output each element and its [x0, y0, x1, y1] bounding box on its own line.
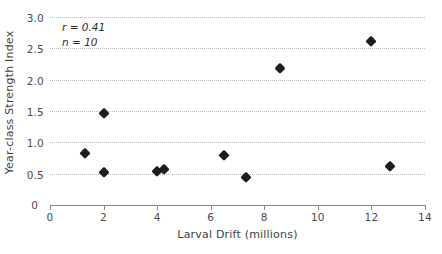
plot-area: 0.51.01.52.02.53.0 [50, 17, 425, 205]
data-point [98, 167, 109, 178]
x-axis-tick [425, 205, 426, 210]
x-axis-tick-label: 8 [261, 211, 268, 223]
x-axis-tick [50, 205, 51, 210]
x-axis-tick-label: 10 [311, 211, 325, 223]
y-axis-tick-label: 2.5 [27, 43, 44, 55]
x-axis-tick [157, 205, 158, 210]
y-axis-tick-label: 3.0 [27, 12, 44, 24]
data-point [80, 148, 91, 159]
x-axis-tick [211, 205, 212, 210]
x-axis-tick-label: 12 [365, 211, 379, 223]
data-point [275, 63, 286, 74]
x-axis-tick-label: 6 [207, 211, 214, 223]
x-axis-tick-label: 4 [154, 211, 161, 223]
y-axis-title-text: Year-class Strength Index [4, 31, 17, 175]
stats-annotation: r = 0.41n = 10 [62, 20, 105, 50]
y-gridline: 2.0 [50, 80, 425, 81]
data-point [385, 161, 396, 172]
y-axis-tick-label: 0 [31, 199, 38, 211]
scatter-plot-figure: 0.51.01.52.02.53.0 02468101214 Larval Dr… [0, 0, 442, 254]
x-axis-tick [318, 205, 319, 210]
x-axis-tick-label: 2 [100, 211, 107, 223]
y-axis-tick-label: 1.0 [27, 137, 44, 149]
annotation-line: n = 10 [62, 35, 105, 50]
x-axis-line [50, 205, 425, 206]
y-axis-title: Year-class Strength Index [2, 0, 18, 205]
y-axis-tick-label: 0.5 [27, 169, 44, 181]
x-axis-tick [371, 205, 372, 210]
y-axis-tick-label: 1.5 [27, 106, 44, 118]
annotation-line: r = 0.41 [62, 20, 105, 35]
data-point [219, 150, 230, 161]
data-point [98, 108, 109, 119]
y-axis-tick-label: 2.0 [27, 75, 44, 87]
x-axis-tick [104, 205, 105, 210]
x-axis-tick-label: 14 [418, 211, 432, 223]
y-gridline: 3.0 [50, 17, 425, 18]
data-point [366, 36, 377, 47]
x-axis-tick [264, 205, 265, 210]
x-axis-tick-label: 0 [47, 211, 54, 223]
y-gridline: 2.5 [50, 48, 425, 49]
y-gridline: 1.0 [50, 142, 425, 143]
x-axis-title: Larval Drift (millions) [50, 228, 425, 241]
